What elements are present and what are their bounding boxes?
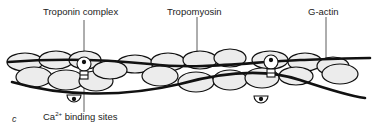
label-tropomyosin: Tropomyosin — [167, 6, 222, 17]
label-calcium-binding-sites: Ca2+ binding sites — [43, 111, 117, 122]
binding-sites-text: binding sites — [62, 111, 117, 122]
label-troponin-complex: Troponin complex — [43, 6, 118, 17]
calcium-charge: 2+ — [55, 111, 62, 117]
panel-letter: c — [12, 114, 17, 124]
calcium-symbol: Ca — [43, 111, 55, 122]
label-g-actin: G-actin — [308, 6, 339, 17]
